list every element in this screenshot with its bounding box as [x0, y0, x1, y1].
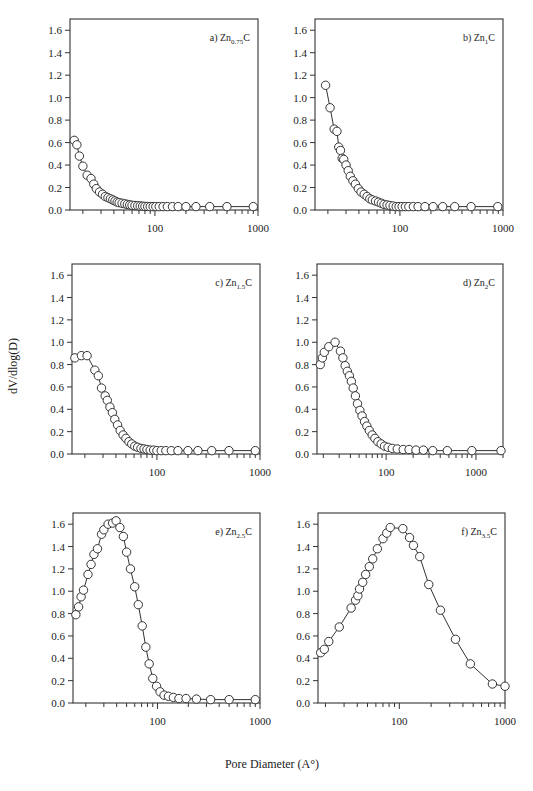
data-point [73, 141, 81, 149]
y-tick-label: 0.4 [296, 652, 310, 664]
y-tick-label: 1.4 [51, 541, 65, 553]
y-tick-label: 0.4 [293, 159, 307, 171]
data-point [184, 446, 192, 454]
panels-group: 0.00.20.40.60.81.01.21.41.61001000a) Zn0… [48, 19, 516, 727]
data-point [122, 548, 130, 556]
data-point [451, 635, 459, 643]
y-tick-label: 1.6 [48, 24, 62, 36]
data-point [438, 202, 446, 210]
y-tick-label: 0.6 [293, 137, 307, 149]
chart-panel-c: 0.00.20.40.60.81.01.21.41.61001000c) Zn1… [50, 264, 271, 478]
data-point [225, 695, 233, 703]
y-tick-label: 1.2 [295, 314, 309, 326]
data-point [429, 202, 437, 210]
data-point [421, 202, 429, 210]
data-point [97, 384, 105, 392]
y-tick-label: 0.4 [48, 159, 62, 171]
data-point [134, 600, 142, 608]
data-point [468, 446, 476, 454]
y-tick-label: 0.0 [50, 448, 64, 460]
y-tick-label: 1.6 [50, 269, 64, 281]
data-point [119, 532, 127, 540]
panel-label: a) Zn0.75C [210, 32, 251, 46]
y-tick-label: 0.8 [293, 114, 307, 126]
y-tick-label: 0.6 [50, 381, 64, 393]
data-point [83, 351, 91, 359]
series-line [76, 521, 255, 700]
x-tick-label: 1000 [492, 222, 515, 234]
data-point [497, 446, 505, 454]
data-point [126, 565, 134, 573]
data-point [75, 152, 83, 160]
y-axis-title: dV/dlog(D) [6, 338, 20, 394]
data-point [325, 637, 333, 645]
chart-panel-e: 0.00.20.40.60.81.01.21.41.61001000e) Zn2… [51, 513, 271, 727]
series-line [326, 85, 498, 206]
x-tick-label: 100 [378, 466, 395, 478]
x-tick-label: 1000 [249, 715, 272, 727]
data-point [145, 660, 153, 668]
data-point [349, 384, 357, 392]
data-point [116, 523, 124, 531]
x-tick-label: 1000 [247, 222, 270, 234]
x-axis-title: Pore Diameter (A°) [225, 757, 319, 771]
x-tick-label: 100 [149, 466, 166, 478]
plot-frame [315, 19, 503, 210]
data-point [174, 202, 182, 210]
y-tick-label: 1.0 [296, 585, 310, 597]
plot-frame [73, 513, 260, 703]
y-tick-label: 0.0 [296, 697, 310, 709]
data-point [419, 446, 427, 454]
y-tick-label: 1.0 [51, 585, 65, 597]
y-tick-label: 1.6 [293, 24, 307, 36]
y-tick-label: 0.0 [295, 448, 309, 460]
y-tick-label: 0.6 [296, 630, 310, 642]
data-point [436, 606, 444, 614]
data-point [386, 523, 394, 531]
panel-label: f) Zn3.5C [461, 526, 497, 540]
y-tick-label: 0.2 [293, 182, 307, 194]
data-point [208, 446, 216, 454]
y-tick-label: 1.0 [295, 336, 309, 348]
data-point [192, 695, 200, 703]
y-tick-label: 0.2 [296, 675, 310, 687]
y-tick-label: 0.8 [295, 359, 309, 371]
x-tick-label: 100 [149, 715, 166, 727]
data-point [223, 202, 231, 210]
data-point [182, 202, 190, 210]
data-point [501, 682, 509, 690]
y-tick-label: 0.0 [293, 204, 307, 216]
y-tick-label: 1.6 [295, 269, 309, 281]
figure-canvas: 0.00.20.40.60.81.01.21.41.61001000a) Zn0… [0, 0, 533, 791]
data-point [339, 354, 347, 362]
data-point [466, 660, 474, 668]
data-point [194, 446, 202, 454]
y-tick-label: 0.2 [51, 675, 65, 687]
data-point [467, 202, 475, 210]
x-tick-label: 1000 [494, 715, 517, 727]
data-point [206, 695, 214, 703]
y-tick-label: 1.0 [48, 92, 62, 104]
y-tick-label: 0.6 [48, 137, 62, 149]
plot-frame [72, 264, 260, 454]
data-point [347, 604, 355, 612]
y-tick-label: 0.2 [295, 426, 309, 438]
y-tick-label: 0.8 [50, 359, 64, 371]
y-tick-label: 1.2 [48, 69, 62, 81]
y-tick-label: 1.6 [51, 518, 65, 530]
data-point [331, 338, 339, 346]
y-tick-label: 0.6 [51, 630, 65, 642]
data-point [74, 603, 82, 611]
data-point [94, 372, 102, 380]
chart-panel-b: 0.00.20.40.60.81.01.21.41.61001000b) Zn1… [293, 19, 514, 234]
x-tick-label: 1000 [249, 466, 272, 478]
x-tick-label: 1000 [465, 466, 488, 478]
data-point [336, 146, 344, 154]
data-point [249, 202, 257, 210]
y-tick-label: 0.4 [295, 403, 309, 415]
panel-label: c) Zn1.5C [215, 277, 252, 291]
data-point [192, 202, 200, 210]
data-point [320, 645, 328, 653]
data-point [321, 81, 329, 89]
data-point [335, 623, 343, 631]
